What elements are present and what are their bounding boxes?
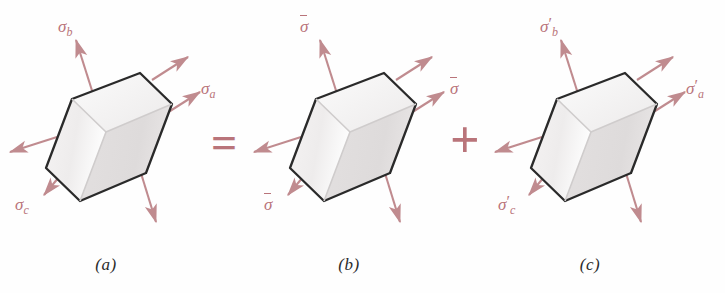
label-sigma-bar-top: σ <box>300 18 308 35</box>
label-sigma-bar-right: σ <box>450 80 458 97</box>
arrow-sigma-a-back <box>152 57 188 80</box>
equals-operator: = <box>211 120 237 166</box>
arrow-sigma-prime-a-back <box>637 57 673 80</box>
label-sigma-bar-bottom-left: σ <box>264 196 272 213</box>
label-sigma-a: σa <box>201 80 215 97</box>
arrow-sigma-c-left <box>10 137 57 152</box>
label-sigma-prime-c: σ′c <box>498 196 515 213</box>
stress-decomposition-figure: = + σb σa σc σ σ σ σ′b σ′a σ′c (a) (b) (… <box>0 0 725 293</box>
caption-panel-a: (a) <box>76 255 136 275</box>
arrow-sigma-prime-c-left <box>495 137 542 152</box>
subscript-b: b <box>552 25 558 39</box>
subscript-b: b <box>66 25 72 39</box>
subscript-c: c <box>510 203 515 217</box>
sigma-bar-glyph: σ <box>450 80 458 97</box>
caption-panel-b: (b) <box>319 255 379 275</box>
caption-panel-c: (c) <box>560 255 620 275</box>
sigma-bar-glyph: σ <box>300 18 308 35</box>
subscript-a: a <box>209 87 215 101</box>
plus-operator: + <box>450 114 480 166</box>
arrow-sigma-bar-down <box>384 170 400 222</box>
sigma-bar-glyph: σ <box>264 196 272 213</box>
label-sigma-b: σb <box>58 18 72 35</box>
arrow-sigma-bar-back <box>396 57 432 80</box>
label-sigma-c: σc <box>15 196 29 213</box>
subscript-a: a <box>698 87 704 101</box>
panel-a-group <box>10 40 200 222</box>
figure-canvas <box>0 0 725 293</box>
label-sigma-prime-b: σ′b <box>540 18 558 35</box>
panel-c-group <box>495 40 685 222</box>
arrow-sigma-bar-left <box>254 137 301 152</box>
subscript-c: c <box>23 203 28 217</box>
label-sigma-prime-a: σ′a <box>686 80 704 97</box>
arrow-sigma-b-down <box>140 170 156 222</box>
arrow-sigma-prime-b-down <box>625 170 641 222</box>
panel-b-group <box>254 40 444 222</box>
